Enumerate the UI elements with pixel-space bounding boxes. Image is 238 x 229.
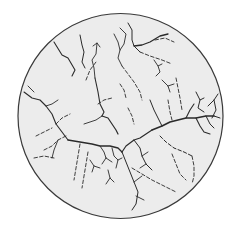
- figure-stage: [0, 0, 238, 229]
- sample-disc: [18, 14, 223, 219]
- crack-network-figure: [0, 0, 238, 229]
